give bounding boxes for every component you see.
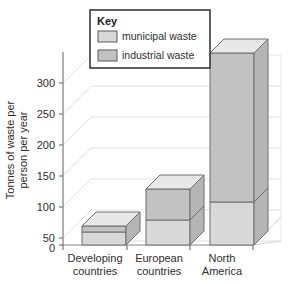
- xlabel-developing-line2: countries: [73, 265, 118, 277]
- bar-north-america[interactable]: [210, 39, 268, 245]
- legend-label-industrial-waste: industrial waste: [122, 49, 195, 61]
- bar-side-face: [254, 39, 268, 245]
- ytick-100: 100: [37, 201, 55, 213]
- bar-segment-municipal: [210, 202, 254, 245]
- xlabel-north-america-line2: America: [202, 265, 243, 277]
- legend[interactable]: Key municipal waste industrial waste: [90, 10, 210, 68]
- legend-item-industrial[interactable]: industrial waste: [98, 49, 195, 61]
- bar-european-countries[interactable]: [146, 175, 204, 245]
- xlabel-european-line1: European: [135, 252, 183, 264]
- x-axis-ticks: [63, 245, 253, 250]
- x-axis-labels: Developing countries European countries …: [67, 252, 243, 277]
- ytick-0: 0: [49, 242, 55, 254]
- legend-swatch-municipal-waste: [98, 31, 117, 42]
- xlabel-north-america-line1: North: [209, 252, 236, 264]
- chart-container: 300 250 200 150 100 50 0 Tonnes of waste…: [0, 0, 299, 284]
- legend-item-municipal[interactable]: municipal waste: [98, 30, 197, 42]
- depth-edges: [63, 55, 91, 245]
- legend-label-municipal-waste: municipal waste: [122, 30, 197, 42]
- y-axis-title-line1: Tonnes of waste per: [4, 100, 16, 199]
- bar-segment-municipal: [146, 220, 190, 245]
- bar-segment-industrial: [146, 189, 190, 220]
- bar-segment-municipal: [82, 232, 126, 245]
- legend-swatch-industrial-waste: [98, 50, 117, 61]
- ytick-150: 150: [37, 170, 55, 182]
- legend-title: Key: [97, 15, 118, 27]
- y-axis: [59, 52, 63, 246]
- ytick-250: 250: [37, 108, 55, 120]
- bar-segment-industrial: [82, 226, 126, 232]
- y-axis-title: Tonnes of waste per person per year: [4, 100, 29, 199]
- ytick-300: 300: [37, 77, 55, 89]
- xlabel-european-line2: countries: [137, 265, 182, 277]
- ytick-200: 200: [37, 139, 55, 151]
- bar-segment-industrial: [210, 53, 254, 202]
- bar-developing-countries[interactable]: [82, 212, 140, 245]
- xlabel-developing-line1: Developing: [67, 252, 122, 264]
- y-axis-title-line2: person per year: [17, 111, 29, 188]
- waste-bar-chart: 300 250 200 150 100 50 0 Tonnes of waste…: [0, 0, 299, 284]
